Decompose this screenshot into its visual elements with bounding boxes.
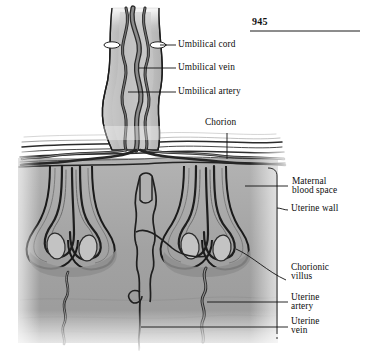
label-uterine-artery: Uterine artery: [291, 293, 363, 312]
label-umbilical-cord: Umbilical cord: [178, 40, 235, 50]
edge-fade-top: [18, 126, 282, 140]
label-uterine-vein: Uterine vein: [291, 317, 363, 336]
edge-fade-bottom: [14, 310, 282, 356]
page-number: 945: [252, 16, 268, 27]
label-umbilical-artery: Umbilical artery: [178, 87, 241, 97]
label-umbilical-vein: Umbilical vein: [178, 63, 235, 73]
label-uterine-wall: Uterine wall: [291, 204, 338, 214]
label-chorionic-villus: Chorionic villus: [291, 263, 363, 282]
label-chorionic-villus-line2: villus: [291, 271, 312, 281]
label-chorion: Chorion: [205, 118, 236, 128]
label-uterine-artery-line2: artery: [291, 301, 313, 311]
label-uterine-vein-line2: vein: [291, 325, 307, 335]
label-maternal-blood-space-line2: blood space: [292, 185, 337, 195]
label-maternal-blood-space: Maternal blood space: [292, 177, 364, 196]
